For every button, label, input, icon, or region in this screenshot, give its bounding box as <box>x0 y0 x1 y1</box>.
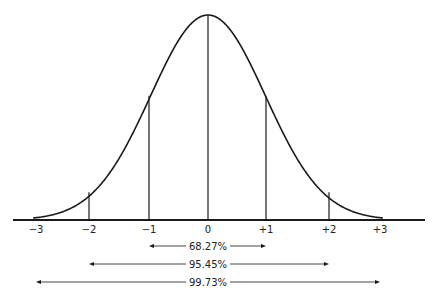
tick-label: −1 <box>142 224 157 235</box>
sigma-lines <box>89 15 329 220</box>
tick-label: −3 <box>29 224 44 235</box>
range-arrows: 68.27%95.45%99.73% <box>36 241 380 288</box>
tick-label: −2 <box>82 224 97 235</box>
arrowhead-right-icon <box>375 280 380 284</box>
arrowhead-left-icon <box>149 244 154 248</box>
range-arrow: 68.27% <box>149 241 266 252</box>
arrowhead-right-icon <box>261 244 266 248</box>
range-arrow: 99.73% <box>36 277 380 288</box>
percentage-label: 68.27% <box>189 241 227 252</box>
percentage-label: 95.45% <box>189 259 227 270</box>
arrowhead-right-icon <box>324 262 329 266</box>
tick-labels: −3−2−10+1+2+3 <box>29 224 388 235</box>
tick-label: +2 <box>322 224 337 235</box>
range-arrow: 95.45% <box>89 259 329 270</box>
percentage-label: 99.73% <box>189 277 227 288</box>
tick-label: +3 <box>373 224 388 235</box>
normal-distribution-diagram: −3−2−10+1+2+3 68.27%95.45%99.73% <box>0 0 436 301</box>
arrowhead-left-icon <box>36 280 41 284</box>
tick-label: +1 <box>259 224 274 235</box>
arrowhead-left-icon <box>89 262 94 266</box>
tick-label: 0 <box>205 224 211 235</box>
